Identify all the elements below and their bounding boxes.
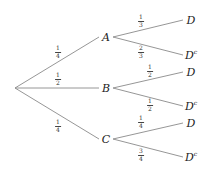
prob-root-c: 14 xyxy=(55,119,61,133)
prob-a-dc: 23 xyxy=(138,45,144,59)
edge-c-to-d xyxy=(113,123,183,139)
node-label: D xyxy=(187,117,196,130)
edge-a-to-dc xyxy=(113,37,183,55)
probability-tree-diagram: A14B12C14D13Dc23D12Dc12D14Dc34 xyxy=(0,0,207,173)
prob-root-b: 12 xyxy=(55,72,61,86)
leaf-b-dc: Dc xyxy=(185,101,197,112)
node-c: C xyxy=(102,134,110,145)
fraction-denominator: 2 xyxy=(148,72,152,79)
node-label: D xyxy=(185,151,194,164)
prob-b-d: 12 xyxy=(147,64,153,78)
node-a: A xyxy=(102,32,110,43)
node-label: D xyxy=(187,14,196,27)
fraction-denominator: 3 xyxy=(139,22,143,29)
node-label: B xyxy=(102,82,110,95)
prob-c-dc: 34 xyxy=(138,148,144,162)
fraction-denominator: 4 xyxy=(139,123,143,130)
fraction-denominator: 2 xyxy=(56,80,60,87)
edge-c-to-dc xyxy=(113,139,183,157)
leaf-c-d: D xyxy=(187,118,196,129)
complement-mark: c xyxy=(194,150,197,157)
fraction-denominator: 4 xyxy=(56,127,60,134)
edge-a-to-d xyxy=(113,20,183,37)
node-label: D xyxy=(185,100,194,113)
node-label: C xyxy=(102,133,110,146)
fraction-denominator: 3 xyxy=(139,53,143,60)
fraction-denominator: 2 xyxy=(148,106,152,113)
leaf-c-dc: Dc xyxy=(185,152,197,163)
node-b: B xyxy=(102,83,110,94)
leaf-b-d: D xyxy=(187,67,196,78)
fraction-denominator: 4 xyxy=(56,53,60,60)
node-label: D xyxy=(185,49,194,62)
node-label: A xyxy=(102,31,110,44)
prob-b-dc: 12 xyxy=(147,98,153,112)
complement-mark: c xyxy=(194,48,197,55)
node-label: D xyxy=(187,66,196,79)
complement-mark: c xyxy=(194,99,197,106)
prob-a-d: 13 xyxy=(138,14,144,28)
prob-root-a: 14 xyxy=(55,45,61,59)
leaf-a-dc: Dc xyxy=(185,50,197,61)
prob-c-d: 14 xyxy=(138,115,144,129)
leaf-a-d: D xyxy=(187,15,196,26)
fraction-denominator: 4 xyxy=(139,156,143,163)
